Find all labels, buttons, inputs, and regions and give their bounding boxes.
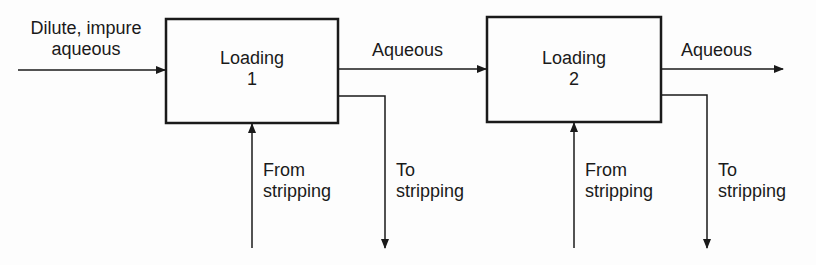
to-stripping-label-1: To stripping xyxy=(396,160,464,202)
stage-2-label: Loading 2 xyxy=(487,48,661,90)
from-stripping-2-line2: stripping xyxy=(585,181,653,202)
to-stripping-2-line1: To xyxy=(718,160,786,181)
from-stripping-2-line1: From xyxy=(585,160,653,181)
to-stripping-arrow-1 xyxy=(339,96,385,248)
stage-1-label: Loading 1 xyxy=(166,48,338,90)
to-stripping-2-line2: stripping xyxy=(718,181,786,202)
stage-2-title: Loading xyxy=(487,48,661,69)
from-stripping-1-line1: From xyxy=(263,160,331,181)
to-stripping-label-2: To stripping xyxy=(718,160,786,202)
feed-label-line2: aqueous xyxy=(18,39,154,60)
to-stripping-arrow-2 xyxy=(662,95,707,248)
feed-label-line1: Dilute, impure xyxy=(18,18,154,39)
outlet-label: Aqueous xyxy=(681,40,752,61)
feed-label: Dilute, impure aqueous xyxy=(18,18,154,60)
from-stripping-label-1: From stripping xyxy=(263,160,331,202)
to-stripping-1-line1: To xyxy=(396,160,464,181)
interstage-label: Aqueous xyxy=(372,40,443,61)
stage-1-number: 1 xyxy=(166,69,338,90)
stage-2-number: 2 xyxy=(487,69,661,90)
stage-1-title: Loading xyxy=(166,48,338,69)
to-stripping-1-line2: stripping xyxy=(396,181,464,202)
from-stripping-label-2: From stripping xyxy=(585,160,653,202)
from-stripping-1-line2: stripping xyxy=(263,181,331,202)
